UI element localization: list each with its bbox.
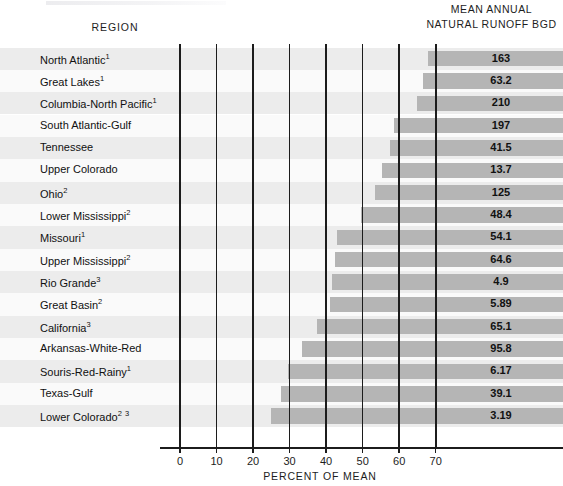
runoff-value: 64.6 <box>471 253 531 265</box>
chart-row: Great Basin25.89 <box>0 293 563 315</box>
chart-row: Upper Mississippi264.6 <box>0 249 563 271</box>
region-label: Lower Mississippi2 <box>40 208 131 222</box>
top-edge-artifact <box>46 1 226 5</box>
x-axis-tick <box>216 447 217 453</box>
chart-row: Souris-Red-Rainy16.17 <box>0 360 563 382</box>
region-label: South Atlantic-Gulf <box>40 119 131 131</box>
gridline <box>289 44 291 447</box>
region-label: Souris-Red-Rainy1 <box>40 364 131 378</box>
footnote-marker: 3 <box>86 320 91 329</box>
region-label: North Atlantic1 <box>40 52 110 66</box>
region-label: Rio Grande3 <box>40 275 101 289</box>
gridline <box>179 44 181 447</box>
region-label: Upper Colorado <box>40 163 118 175</box>
region-column-header: REGION <box>40 21 190 33</box>
x-axis-tick <box>179 447 180 453</box>
runoff-value: 54.1 <box>471 230 531 242</box>
x-axis-title: PERCENT OF MEAN <box>180 470 460 482</box>
x-axis-tick-label: 70 <box>421 455 451 467</box>
chart-row: Ohio2125 <box>0 182 563 204</box>
runoff-value: 13.7 <box>471 163 531 175</box>
region-label: Great Basin2 <box>40 297 103 311</box>
value-column-header: MEAN ANNUAL NATURAL RUNOFF BGD <box>420 2 563 31</box>
chart-row: Great Lakes163.2 <box>0 70 563 92</box>
x-axis-tick-label: 10 <box>202 455 232 467</box>
runoff-value: 48.4 <box>471 208 531 220</box>
chart-row: California365.1 <box>0 316 563 338</box>
value-column-header-line1: MEAN ANNUAL <box>420 2 563 17</box>
region-label: Tennessee <box>40 141 93 153</box>
region-label: Lower Colorado2 3 <box>40 409 130 423</box>
gridline <box>362 44 364 447</box>
chart-row: Upper Colorado13.7 <box>0 159 563 181</box>
chart-row: Rio Grande34.9 <box>0 271 563 293</box>
gridline <box>398 44 400 447</box>
x-axis-tick <box>362 447 363 453</box>
footnote-marker: 1 <box>127 364 132 373</box>
x-axis-tick-label: 20 <box>238 455 268 467</box>
chart-row: Tennessee41.5 <box>0 137 563 159</box>
gridline <box>252 44 254 447</box>
footnote-marker: 2 3 <box>118 409 130 418</box>
region-label: Great Lakes1 <box>40 74 105 88</box>
region-label: Ohio2 <box>40 186 68 200</box>
footnote-marker: 1 <box>105 52 110 61</box>
gridline <box>325 44 327 447</box>
gridline <box>216 44 218 447</box>
runoff-value: 63.2 <box>471 74 531 86</box>
runoff-value: 163 <box>471 52 531 64</box>
footnote-marker: 2 <box>126 253 131 262</box>
region-label: Arkansas-White-Red <box>40 342 141 354</box>
value-bar <box>361 207 563 222</box>
runoff-value: 197 <box>471 119 531 131</box>
runoff-value: 210 <box>471 96 531 108</box>
runoff-value: 95.8 <box>471 342 531 354</box>
chart-row: Arkansas-White-Red95.8 <box>0 338 563 360</box>
x-axis-tick <box>398 447 399 453</box>
x-axis-tick-label: 30 <box>275 455 305 467</box>
x-axis-tick-label: 60 <box>384 455 414 467</box>
runoff-value: 3.19 <box>471 409 531 421</box>
chart-row: South Atlantic-Gulf197 <box>0 115 563 137</box>
value-bar <box>375 185 563 200</box>
footnote-marker: 3 <box>96 275 101 284</box>
runoff-value: 4.9 <box>471 275 531 287</box>
footnote-marker: 1 <box>152 96 157 105</box>
x-axis-tick <box>325 447 326 453</box>
region-label: Missouri1 <box>40 230 86 244</box>
region-label: Texas-Gulf <box>40 387 93 399</box>
runoff-value: 5.89 <box>471 297 531 309</box>
region-label: California3 <box>40 320 91 334</box>
footnote-marker: 1 <box>81 230 86 239</box>
chart-row: Lower Mississippi248.4 <box>0 204 563 226</box>
footnote-marker: 2 <box>98 297 103 306</box>
region-label: Columbia-North Pacific1 <box>40 96 157 110</box>
footnote-marker: 2 <box>63 186 68 195</box>
x-axis-tick-label: 40 <box>311 455 341 467</box>
footnote-marker: 1 <box>100 74 105 83</box>
runoff-value: 6.17 <box>471 364 531 376</box>
chart-row: Missouri154.1 <box>0 226 563 248</box>
runoff-bar-chart: REGION MEAN ANNUAL NATURAL RUNOFF BGD No… <box>0 0 563 486</box>
footnote-marker: 2 <box>126 208 131 217</box>
runoff-value: 39.1 <box>471 387 531 399</box>
gridline <box>435 44 437 447</box>
x-axis-tick <box>435 447 436 453</box>
runoff-value: 65.1 <box>471 320 531 332</box>
x-axis-tick-label: 0 <box>165 455 195 467</box>
chart-row: Texas-Gulf39.1 <box>0 383 563 405</box>
runoff-value: 41.5 <box>471 141 531 153</box>
chart-row: Columbia-North Pacific1210 <box>0 92 563 114</box>
x-axis-tick-label: 50 <box>348 455 378 467</box>
runoff-value: 125 <box>471 186 531 198</box>
chart-row: Lower Colorado2 33.19 <box>0 405 563 427</box>
x-axis-tick <box>289 447 290 453</box>
value-column-header-line2: NATURAL RUNOFF BGD <box>420 17 563 32</box>
region-label: Upper Mississippi2 <box>40 253 131 267</box>
x-axis-tick <box>252 447 253 453</box>
chart-row: North Atlantic1163 <box>0 48 563 70</box>
